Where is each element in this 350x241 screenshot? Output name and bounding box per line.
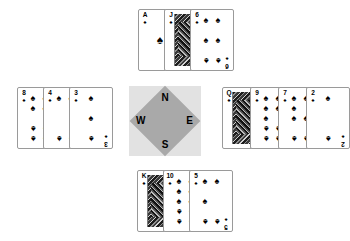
card-pip: ♠: [292, 114, 297, 123]
hand-south: K♠K♠10♠10♠♠♠♠♠♠♠♠♠♠♠5♠5♠♠♠♠♠♠: [137, 170, 233, 232]
card-pip: ♠: [264, 104, 269, 113]
compass-rose: N W E S: [129, 86, 201, 156]
card-pip: ♠: [204, 56, 209, 65]
card-pip: ♠: [177, 207, 182, 216]
card-pip: ♠: [216, 16, 221, 25]
card-pip: ♠: [31, 124, 36, 133]
card-pip: ♠: [177, 217, 182, 226]
card-pip: ♠: [215, 217, 220, 226]
card-pip: ♠: [216, 36, 221, 45]
card-corner-index: 3♠: [102, 134, 110, 147]
card-pip: ♠: [31, 94, 36, 103]
hand-north: A♠A♠♠J♠J♠6♠6♠♠♠♠♠♠♠: [138, 9, 234, 71]
card-pip: ♠: [204, 16, 209, 25]
playing-card[interactable]: 6♠6♠♠♠♠♠♠♠: [190, 9, 234, 71]
hand-west: 8♠8♠♠♠♠♠♠♠♠♠4♠4♠♠♠♠♠3♠3♠♠♠♠: [17, 87, 113, 149]
card-corner-index: 6♠: [223, 56, 231, 69]
compass-label-south: S: [162, 140, 169, 150]
card-pip: ♠: [177, 177, 182, 186]
card-pip: ♠: [203, 217, 208, 226]
compass-label-east: E: [186, 116, 193, 126]
playing-card[interactable]: 3♠3♠♠♠♠: [69, 87, 113, 149]
card-pip: ♠: [31, 134, 36, 143]
card-pip-grid: ♠♠♠♠♠: [199, 176, 223, 226]
playing-card[interactable]: 2♠2♠♠♠: [306, 87, 350, 149]
card-pip: ♠: [204, 36, 209, 45]
card-pip: ♠: [326, 134, 331, 143]
card-pip: ♠: [57, 94, 62, 103]
card-pip: ♠: [292, 134, 297, 143]
card-pip: ♠: [292, 94, 297, 103]
card-pip: ♠: [203, 177, 208, 186]
card-pip: ♠: [31, 104, 36, 113]
card-pip: ♠: [203, 197, 208, 206]
card-pip: ♠: [215, 177, 220, 186]
card-pip: ♠: [264, 124, 269, 133]
card-pip: ♠: [177, 187, 182, 196]
card-pip: ♠: [89, 114, 94, 123]
card-pip: ♠: [264, 134, 269, 143]
compass-label-north: N: [161, 93, 168, 103]
compass-label-west: W: [136, 116, 145, 126]
card-corner-index: 5♠: [222, 217, 230, 230]
card-pip: ♠: [89, 94, 94, 103]
card-pip: ♠: [157, 34, 163, 46]
card-pip: ♠: [57, 134, 62, 143]
hand-east: Q♠Q♠9♠9♠♠♠♠♠♠♠♠♠♠7♠7♠♠♠♠♠♠♠♠2♠2♠♠♠: [222, 87, 350, 149]
card-pip: ♠: [326, 94, 331, 103]
card-pip-grid: ♠♠♠: [79, 93, 103, 143]
card-pip: ♠: [177, 197, 182, 206]
card-pip: ♠: [264, 114, 269, 123]
playing-card[interactable]: 5♠5♠♠♠♠♠♠: [189, 170, 233, 232]
card-pip-grid: ♠♠♠♠♠♠: [200, 15, 224, 65]
card-pip: ♠: [216, 56, 221, 65]
card-pip-grid: ♠♠: [316, 93, 340, 143]
card-pip: ♠: [89, 134, 94, 143]
card-corner-index: 2♠: [339, 134, 347, 147]
card-pip: ♠: [292, 104, 297, 113]
card-pip: ♠: [264, 94, 269, 103]
